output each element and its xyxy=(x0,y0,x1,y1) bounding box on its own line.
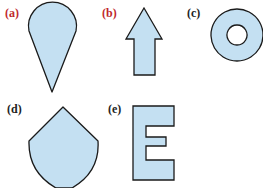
shapes-figure xyxy=(0,0,263,188)
up-arrow-shape xyxy=(126,8,162,75)
label-c: (c) xyxy=(187,7,200,19)
ring-shape xyxy=(211,9,263,61)
letter-e-shape xyxy=(133,106,174,180)
shield-shape xyxy=(29,107,98,188)
teardrop-shape xyxy=(29,2,77,92)
label-b: (b) xyxy=(102,7,117,19)
label-a: (a) xyxy=(5,7,19,19)
label-e: (e) xyxy=(108,103,121,115)
label-d: (d) xyxy=(7,103,22,115)
